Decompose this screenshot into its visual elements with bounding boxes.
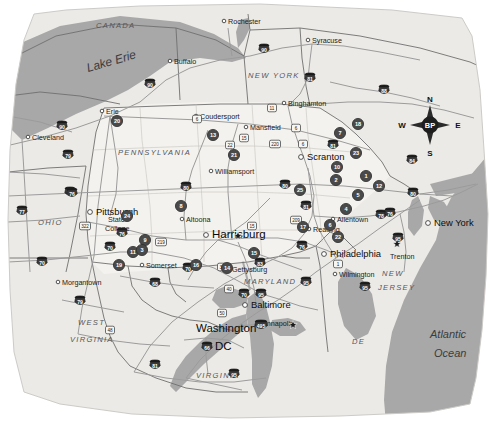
- interstate-number: 66: [204, 345, 210, 351]
- site-marker-1[interactable]: 1: [360, 170, 371, 181]
- us-route-shield-220: 220: [270, 140, 281, 148]
- interstate-shield-topbar: [408, 188, 418, 190]
- site-marker-13-number: 13: [210, 132, 216, 138]
- interstate-number: 95: [231, 372, 237, 378]
- map-container: Lake ErieAtlanticOcean CANADANEW YORKPEN…: [0, 0, 492, 424]
- city-somerset-label: Somerset: [146, 261, 177, 270]
- interstate-number: 76: [299, 244, 305, 250]
- state-label-pennsylvania: PENNSYLVANIA: [118, 148, 191, 157]
- site-marker-21-number: 21: [231, 152, 237, 158]
- interstate-shield-topbar: [255, 320, 267, 322]
- site-marker-12[interactable]: 12: [373, 180, 384, 191]
- interstate-number: 81: [330, 143, 336, 149]
- site-marker-6[interactable]: 6: [324, 219, 335, 230]
- interstate-shield-topbar: [407, 155, 417, 157]
- us-route-shield-6: 6: [193, 115, 202, 123]
- us-route-shield-15: 15: [240, 134, 249, 142]
- city-harrisburg-dot: [204, 233, 209, 238]
- city-erie-label: Erie: [106, 107, 119, 116]
- us-route-shield-11: 11: [268, 104, 277, 112]
- city-cleveland-dot: [26, 135, 30, 139]
- city-rochester-dot: [222, 19, 226, 23]
- interstate-number: 95: [258, 292, 264, 298]
- site-marker-7[interactable]: 7: [334, 127, 345, 138]
- interstate-number: 81: [303, 204, 309, 210]
- interstate-number: 70: [241, 292, 247, 298]
- interstate-shield-topbar: [75, 296, 85, 298]
- interstate-shield-topbar: [67, 188, 77, 190]
- site-marker-17-number: 17: [300, 224, 306, 230]
- interstate-shield-topbar: [301, 201, 311, 203]
- water-label-1: Atlantic: [429, 328, 467, 340]
- site-marker-22[interactable]: 22: [332, 231, 343, 242]
- site-marker-10[interactable]: 10: [331, 161, 342, 172]
- us-route-shield-6: 6: [299, 140, 308, 148]
- interstate-number: 90: [147, 82, 153, 88]
- city-cleveland-label: Cleveland: [32, 133, 64, 142]
- state-label-ohio: OHIO: [38, 218, 63, 227]
- site-marker-7-number: 7: [338, 130, 341, 136]
- city-rochester-label: Rochester: [228, 17, 261, 26]
- site-marker-14[interactable]: 14: [221, 262, 232, 273]
- us-route-shield-219: 219: [156, 238, 167, 246]
- site-marker-20[interactable]: 20: [111, 115, 122, 126]
- us-route-shield-48: 48: [106, 326, 115, 334]
- site-marker-18[interactable]: 18: [352, 118, 363, 129]
- interstate-shield-topbar: [376, 210, 386, 212]
- regional-map-graphic: Lake ErieAtlanticOcean CANADANEW YORKPEN…: [0, 0, 492, 424]
- site-marker-9[interactable]: 9: [139, 234, 150, 245]
- us-route-number: 48: [107, 328, 113, 333]
- site-marker-2[interactable]: 2: [330, 174, 341, 185]
- interstate-shield-topbar: [259, 44, 269, 46]
- state-label-canada: CANADA: [96, 21, 135, 30]
- site-marker-4[interactable]: 4: [340, 203, 351, 214]
- site-marker-3[interactable]: 3: [136, 244, 147, 255]
- site-marker-22-number: 22: [335, 234, 341, 240]
- site-marker-19[interactable]: 19: [113, 259, 124, 270]
- us-route-number: 22: [227, 143, 233, 148]
- site-marker-16-number: 16: [193, 262, 199, 268]
- interstate-number: 77: [19, 209, 25, 215]
- city-wilmington-label: Wilmington: [339, 270, 375, 279]
- us-route-number: 40: [226, 287, 232, 292]
- state-label-maryland: MARYLAND: [244, 277, 296, 286]
- compass-label-east: E: [455, 121, 461, 130]
- site-marker-3-number: 3: [140, 247, 143, 253]
- site-marker-16[interactable]: 16: [190, 259, 201, 270]
- interstate-number: 80: [183, 185, 189, 191]
- us-route-number: 15: [241, 136, 247, 141]
- city-binghamton-dot: [282, 101, 286, 105]
- site-marker-5[interactable]: 5: [352, 189, 363, 200]
- city-syracuse-label: Syracuse: [312, 36, 342, 45]
- site-marker-21[interactable]: 21: [228, 149, 239, 160]
- interstate-shield-topbar: [301, 277, 311, 279]
- site-marker-25[interactable]: 25: [294, 184, 305, 195]
- interstate-shield-topbar: [63, 150, 73, 152]
- city-trenton-label: Trenton: [390, 252, 415, 261]
- us-route-shield-40: 40: [225, 285, 234, 293]
- city-allentown-label: Allentown: [337, 215, 368, 224]
- us-route-shield-50: 50: [218, 309, 227, 317]
- site-marker-15-number: 15: [251, 250, 257, 256]
- interstate-number: 70: [39, 260, 45, 266]
- state-label-new-york: NEW YORK: [248, 71, 300, 80]
- city-somerset-dot: [140, 263, 144, 267]
- site-marker-8[interactable]: 8: [175, 200, 186, 211]
- us-route-number: 1: [337, 262, 340, 267]
- site-marker-18-number: 18: [355, 121, 361, 127]
- site-marker-17[interactable]: 17: [297, 221, 308, 232]
- us-route-number: 15: [249, 224, 255, 229]
- interstate-shield-topbar: [229, 369, 239, 371]
- us-route-shield-15: 15: [248, 222, 257, 230]
- interstate-shield-topbar: [202, 342, 212, 344]
- interstate-shield-topbar: [150, 278, 160, 280]
- city-morgantown-dot: [56, 280, 60, 284]
- compass-label-south: S: [427, 149, 433, 158]
- site-marker-15[interactable]: 15: [248, 247, 259, 258]
- site-marker-25-number: 25: [297, 187, 303, 193]
- site-marker-24[interactable]: 24: [121, 210, 132, 221]
- interstate-number: 84: [409, 158, 415, 164]
- site-marker-13[interactable]: 13: [207, 129, 218, 140]
- site-marker-12-number: 12: [376, 183, 382, 189]
- site-marker-23[interactable]: 23: [350, 147, 361, 158]
